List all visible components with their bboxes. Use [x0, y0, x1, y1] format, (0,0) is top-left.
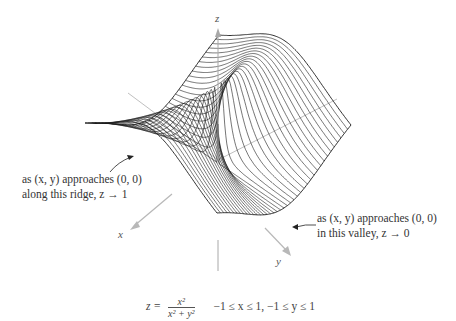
- ridge-arrow: [110, 157, 131, 172]
- z-axis-label: z: [215, 12, 219, 24]
- formula-denominator: x² + y²: [168, 308, 195, 319]
- x-axis-label: x: [118, 228, 123, 240]
- surface-plot: [0, 0, 456, 321]
- valley-annotation: as (x, y) approaches (0, 0) in this vall…: [317, 211, 437, 241]
- valley-annotation-line2: in this valley, z → 0: [317, 226, 437, 241]
- surface-curve: [219, 34, 351, 125]
- valley-annotation-line1: as (x, y) approaches (0, 0): [317, 211, 437, 226]
- z-axis-arrowhead: [215, 28, 221, 37]
- valley-arrowhead: [292, 224, 298, 230]
- formula-fraction: x² x² + y²: [168, 296, 195, 319]
- ridge-annotation-line1: as (x, y) approaches (0, 0): [22, 172, 142, 187]
- surface-curve: [212, 40, 344, 134]
- y-axis-front: [265, 228, 287, 251]
- formula-lhs: z =: [146, 300, 161, 312]
- figure-caption-formula: z = x² x² + y² −1 ≤ x ≤ 1, −1 ≤ y ≤ 1: [146, 296, 315, 319]
- valley-arrow: [296, 225, 316, 227]
- formula-numerator: x²: [168, 296, 195, 308]
- x-axis-back: [128, 93, 218, 160]
- ridge-arrowhead: [127, 155, 134, 160]
- surface-curve: [196, 54, 328, 157]
- formula-domain: −1 ≤ x ≤ 1, −1 ≤ y ≤ 1: [214, 300, 315, 312]
- y-axis-label: y: [276, 255, 281, 267]
- surface-curve: [216, 37, 348, 129]
- ridge-annotation: as (x, y) approaches (0, 0) along this r…: [22, 172, 142, 202]
- ridge-annotation-line2: along this ridge, z → 1: [22, 187, 142, 202]
- surface-edge: [217, 125, 351, 215]
- surface-curve: [209, 43, 341, 138]
